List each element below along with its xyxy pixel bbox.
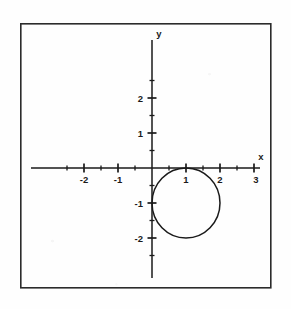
plot-frame — [21, 24, 271, 288]
x-tick-label-neg2: -2 — [80, 174, 88, 185]
y-tick-label-neg1: -1 — [135, 198, 144, 209]
coordinate-plot: -2 -1 1 2 3 2 1 -1 -2 x y — [0, 0, 291, 309]
x-tick-label-1: 1 — [183, 174, 189, 185]
y-tick-label-1: 1 — [138, 128, 144, 139]
axes-group — [31, 40, 260, 278]
x-tick-label-3: 3 — [253, 174, 258, 185]
x-tick-label-neg1: -1 — [114, 174, 123, 185]
y-axis-label: y — [156, 28, 162, 39]
figure-root: -2 -1 1 2 3 2 1 -1 -2 x y — [0, 0, 291, 309]
y-tick-label-neg2: -2 — [135, 233, 143, 244]
x-axis-label: x — [258, 151, 264, 162]
y-tick-label-2: 2 — [138, 93, 143, 104]
x-tick-label-2: 2 — [217, 174, 222, 185]
